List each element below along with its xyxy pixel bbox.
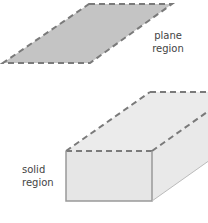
label-line: plane bbox=[148, 29, 188, 42]
label-line: region bbox=[22, 176, 58, 189]
label-line: solid bbox=[22, 163, 58, 176]
plane-region-shape bbox=[3, 4, 172, 63]
plane-region-label: plane region bbox=[148, 29, 188, 55]
label-line: region bbox=[148, 42, 188, 55]
solid-region-label: solid region bbox=[22, 163, 58, 189]
solid-front-face bbox=[66, 151, 152, 201]
